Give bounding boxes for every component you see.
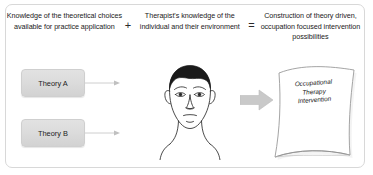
header-text-theoretical-knowledge: Knowledge of the theoretical choices ava… xyxy=(6,9,123,32)
equals-operator: = xyxy=(246,9,257,31)
theory-b-box: Theory B xyxy=(21,119,85,147)
curved-page-icon xyxy=(258,57,364,161)
diagram-canvas: Knowledge of the theoretical choices ava… xyxy=(0,0,373,175)
header-row: Knowledge of the theoretical choices ava… xyxy=(6,9,364,51)
theory-a-box: Theory A xyxy=(21,69,85,97)
header-text-therapist-knowledge: Therapist's knowledge of the individual … xyxy=(133,9,246,32)
plus-operator: + xyxy=(123,9,134,31)
header-text-construction-result: Construction of theory driven, occupatio… xyxy=(257,9,364,43)
theory-a-label: Theory A xyxy=(38,79,68,88)
intervention-page-label: Occupational Therapy Intervention xyxy=(284,77,344,107)
theory-b-label: Theory B xyxy=(38,129,68,138)
line-art-face-icon xyxy=(152,55,228,160)
